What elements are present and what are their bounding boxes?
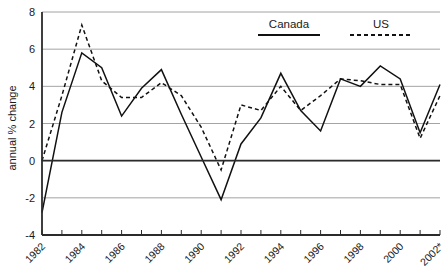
x-axis-tick-label: 2002* [418,240,446,268]
y-axis-tick-label: 0 [29,155,35,167]
x-axis-tick-label: 1990 [182,240,207,265]
legend-label-us: US [373,18,389,30]
x-axis-tick-labels: 1982198419861988199019921994199619982000… [22,240,445,268]
x-axis-tick-label: 1994 [261,240,286,265]
x-axis-tick-label: 1982 [22,240,47,265]
y-axis-title: annual % change [6,85,18,170]
y-axis-tick-label: 4 [29,80,35,92]
x-axis-tick-label: 1984 [62,240,87,265]
y-axis-tick-labels: 86420-2-4 [25,6,35,241]
x-axis-tick-label: 1986 [102,240,127,265]
x-axis-tick-label: 2000 [381,240,406,265]
x-axis-tick-label: 1988 [142,240,167,265]
series-line-canada [42,53,440,213]
y-axis-tick-label: 8 [29,6,35,18]
chart-container: 86420-2-4 198219841986198819901992199419… [0,0,447,276]
gridlines [42,12,440,198]
x-axis-tick-label: 1992 [221,240,246,265]
y-axis-tick-label: 6 [29,43,35,55]
data-series [42,25,440,213]
y-axis-tick-label: -2 [25,192,35,204]
x-axis-tick-label: 1996 [301,240,326,265]
y-axis-tick-label: 2 [29,118,35,130]
legend-label-canada: Canada [269,18,310,30]
chart-legend: CanadaUS [258,18,412,35]
y-axis-tick-label: -4 [25,229,35,241]
x-axis-tick-label: 1998 [341,240,366,265]
series-line-us [42,25,440,170]
line-chart: 86420-2-4 198219841986198819901992199419… [0,0,447,276]
